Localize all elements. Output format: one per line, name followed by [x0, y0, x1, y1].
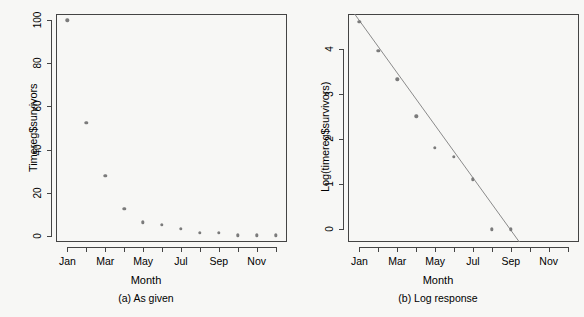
panel-a-ytick [47, 236, 52, 237]
panel-a-xtick [162, 247, 163, 252]
panel-a-xtick [143, 247, 144, 252]
panel-a-xtick [181, 247, 182, 252]
panel-a-x-axis-line [67, 247, 275, 248]
panel-a-xtick-label: Sep [209, 255, 228, 267]
panel-a-xtick [238, 247, 239, 252]
panel-a-ytick-label: 80 [32, 58, 43, 69]
panel-a-ytick [47, 20, 52, 21]
panel-a-ytick [47, 63, 52, 64]
panel-a-xtick [276, 247, 277, 252]
panel-a-ytick-label: 20 [32, 187, 43, 198]
panel-a-xtick-label: Jan [59, 255, 76, 267]
panel-a-y-axis-line [51, 20, 52, 235]
panel-a-xtick [257, 247, 258, 252]
panel-a-caption: (a) As given [0, 292, 292, 304]
panel-a-ytick-label: 100 [32, 12, 43, 29]
panel-a-ytick-label: 60 [32, 101, 43, 112]
panel-a-xtick [86, 247, 87, 252]
panel-a-ytick [47, 150, 52, 151]
panel-b-fit-line [292, 0, 584, 317]
panel-a-xtick-label: May [133, 255, 153, 267]
panel-a-xtick [105, 247, 106, 252]
panel-a-xtick-label: Nov [247, 255, 266, 267]
figure-two-panel-scatter: Timereg$survivors Month (a) As given 020… [0, 0, 584, 317]
panel-a-xtick [124, 247, 125, 252]
panel-a-xlabel: Month [0, 274, 292, 286]
panel-a-ytick-label: 0 [32, 233, 43, 239]
panel-a-xtick [67, 247, 68, 252]
panel-a-ytick [47, 106, 52, 107]
panel-a-ylabel: Timereg$survivors [27, 84, 39, 172]
panel-a-xtick [219, 247, 220, 252]
panel-a-ytick [47, 193, 52, 194]
panel-b: Log(timereg$survivors) Month (b) Log res… [292, 0, 584, 317]
panel-a-ytick-label: 40 [32, 144, 43, 155]
panel-a: Timereg$survivors Month (a) As given 020… [0, 0, 292, 317]
panel-a-xtick-label: Jul [174, 255, 187, 267]
panel-a-xtick [200, 247, 201, 252]
panel-a-xtick-label: Mar [96, 255, 114, 267]
panel-a-plot-area [56, 14, 287, 242]
